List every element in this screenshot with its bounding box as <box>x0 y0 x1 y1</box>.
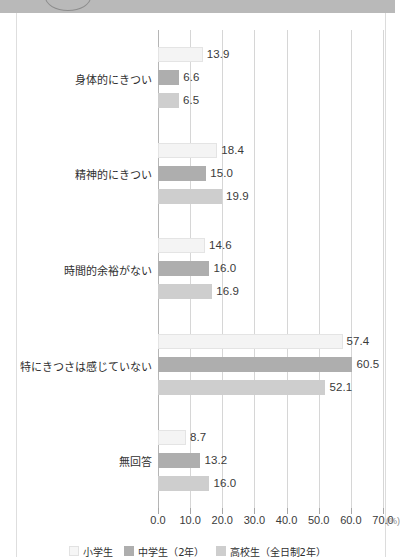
bar-row: 52.1 <box>158 380 383 395</box>
bar-value-label: 8.7 <box>190 429 206 445</box>
bar-value-label: 52.1 <box>329 379 352 395</box>
x-axis-tick-label: 20.0 <box>212 514 233 526</box>
category-label: 精神的にきつい <box>2 166 152 182</box>
category-axis-labels: 身体的にきつい精神的にきつい時間的余裕がない特にきつさは感じていない無回答 <box>0 30 152 508</box>
bar <box>158 261 209 276</box>
x-axis-tick-label: 60.0 <box>340 514 361 526</box>
x-axis-tick-label: 40.0 <box>276 514 297 526</box>
bar-row: 57.4 <box>158 334 383 349</box>
bar <box>158 357 352 372</box>
bar-value-label: 6.5 <box>183 92 199 108</box>
bar-group: 14.616.016.9 <box>158 221 383 317</box>
scan-header-band <box>0 0 395 13</box>
bar-row: 13.2 <box>158 453 383 468</box>
plot-area: 13.96.66.518.415.019.914.616.016.957.460… <box>158 30 383 508</box>
legend-swatch <box>216 546 226 556</box>
bar-value-label: 16.9 <box>216 283 239 299</box>
bar-value-label: 16.0 <box>213 475 236 491</box>
bar-value-label: 14.6 <box>209 237 232 253</box>
bar-row: 13.9 <box>158 47 383 62</box>
bar-row: 16.0 <box>158 476 383 491</box>
bar <box>158 47 203 62</box>
legend-label: 中学生（2年） <box>138 544 204 557</box>
bar-row: 19.9 <box>158 189 383 204</box>
legend-swatch <box>124 546 134 556</box>
bar-row: 6.5 <box>158 93 383 108</box>
bar-group: 57.460.552.1 <box>158 317 383 413</box>
bar-value-label: 16.0 <box>213 260 236 276</box>
bar <box>158 284 212 299</box>
bar-group: 13.96.66.5 <box>158 30 383 126</box>
bar-row: 16.9 <box>158 284 383 299</box>
bar <box>158 430 186 445</box>
chart-legend: 小学生中学生（2年）高校生（全日制2年） <box>0 541 395 557</box>
bar-row: 14.6 <box>158 238 383 253</box>
bar-group: 18.415.019.9 <box>158 126 383 222</box>
gridline <box>383 30 384 508</box>
legend-swatch <box>69 546 79 556</box>
bar-value-label: 6.6 <box>183 69 199 85</box>
bar <box>158 238 205 253</box>
bar-value-label: 15.0 <box>210 165 233 181</box>
x-axis-tick-label: 0.0 <box>150 514 165 526</box>
bar-group: 8.713.216.0 <box>158 412 383 508</box>
bar-row: 60.5 <box>158 357 383 372</box>
category-label: 特にきつさは感じていない <box>2 358 152 374</box>
bar <box>158 143 217 158</box>
x-axis: 0.010.020.030.040.050.060.070.0 <box>158 508 390 534</box>
bar-row: 15.0 <box>158 166 383 181</box>
bar-row: 16.0 <box>158 261 383 276</box>
bar-value-label: 19.9 <box>226 188 249 204</box>
bar <box>158 70 179 85</box>
category-label: 無回答 <box>2 453 152 469</box>
x-axis-tick-label: 10.0 <box>179 514 200 526</box>
x-axis-tick-label: 50.0 <box>308 514 329 526</box>
bar <box>158 453 200 468</box>
bar-chart-figure: 身体的にきつい精神的にきつい時間的余裕がない特にきつさは感じていない無回答 13… <box>0 13 395 557</box>
category-label: 身体的にきつい <box>2 71 152 87</box>
bar-value-label: 57.4 <box>347 333 370 349</box>
legend-label: 小学生 <box>83 544 113 557</box>
x-axis-unit-label: (%) <box>386 516 400 526</box>
bar-value-label: 18.4 <box>221 142 244 158</box>
legend-item: 中学生（2年） <box>124 544 204 557</box>
legend-label: 高校生（全日制2年） <box>230 544 326 557</box>
legend-item: 高校生（全日制2年） <box>216 544 326 557</box>
bar <box>158 166 206 181</box>
bar-row: 8.7 <box>158 430 383 445</box>
x-axis-tick-label: 30.0 <box>244 514 265 526</box>
bar-value-label: 60.5 <box>356 356 379 372</box>
bar-row: 6.6 <box>158 70 383 85</box>
bar <box>158 189 222 204</box>
bar <box>158 476 209 491</box>
bar-value-label: 13.9 <box>207 46 230 62</box>
category-label: 時間的余裕がない <box>2 262 152 278</box>
circle-outline-mark <box>45 0 91 11</box>
bar-row: 18.4 <box>158 143 383 158</box>
bar <box>158 93 179 108</box>
bar <box>158 380 325 395</box>
legend-item: 小学生 <box>69 544 113 557</box>
bar <box>158 334 343 349</box>
bar-value-label: 13.2 <box>204 452 227 468</box>
